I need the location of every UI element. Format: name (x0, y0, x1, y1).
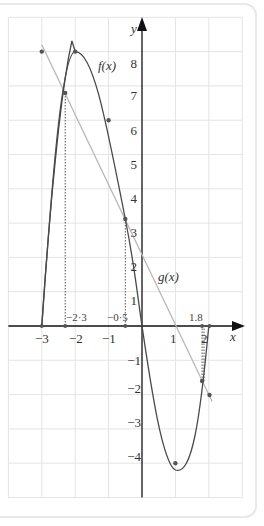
g-end-point (207, 393, 211, 397)
intersection-point-1 (63, 91, 67, 95)
g-start-point (40, 49, 44, 53)
y-tick-minus2: −2 (127, 381, 141, 396)
x-minus0-5-marker (123, 324, 127, 328)
y-tick-8: 8 (131, 56, 138, 71)
y-tick-minus4: −4 (127, 449, 141, 464)
x-tick-1: 1 (170, 331, 177, 346)
x-axis-label: x (229, 329, 236, 344)
y-axis-label: y (129, 21, 137, 36)
annotation-1-8: 1.8 (189, 311, 203, 323)
y-tick-2: 2 (131, 259, 138, 274)
root-2 (208, 324, 212, 328)
f-curve (42, 41, 75, 326)
f-label: f(x) (98, 58, 116, 73)
y-tick-minus1: −1 (127, 353, 141, 368)
y-tick-1: 1 (131, 293, 138, 308)
f-max-point (73, 49, 77, 53)
x-tick-minus1: −1 (102, 331, 116, 346)
f-min-point (173, 461, 177, 465)
y-tick-6: 6 (131, 123, 138, 138)
y-tick-minus3: −3 (127, 415, 141, 430)
g-label: g(x) (158, 269, 179, 284)
x-minus2-3-marker (63, 324, 67, 328)
x-tick-minus2: −2 (69, 331, 83, 346)
y-axis-arrow-icon (137, 17, 147, 31)
intersection-point-3 (200, 379, 204, 383)
root-minus3 (40, 324, 44, 328)
x-tick-2: 2 (201, 331, 208, 346)
y-tick-4: 4 (131, 191, 138, 206)
annotation-minus0-5: −0·5 (107, 311, 128, 323)
intersection-point-2 (123, 217, 127, 221)
grid (8, 17, 242, 497)
x-1-8-marker (200, 324, 204, 328)
f-point-minus1 (106, 118, 110, 122)
x-tick-minus3: −3 (35, 331, 49, 346)
y-tick-5: 5 (131, 157, 138, 172)
y-tick-3: 3 (131, 225, 138, 240)
graph-plot: y x f(x) g(x) −2·3 −0·5 1.8 −3 −2 −1 1 2… (0, 0, 264, 526)
annotation-minus2-3: −2·3 (66, 311, 87, 323)
y-tick-7: 7 (131, 88, 138, 103)
axes (8, 30, 236, 498)
